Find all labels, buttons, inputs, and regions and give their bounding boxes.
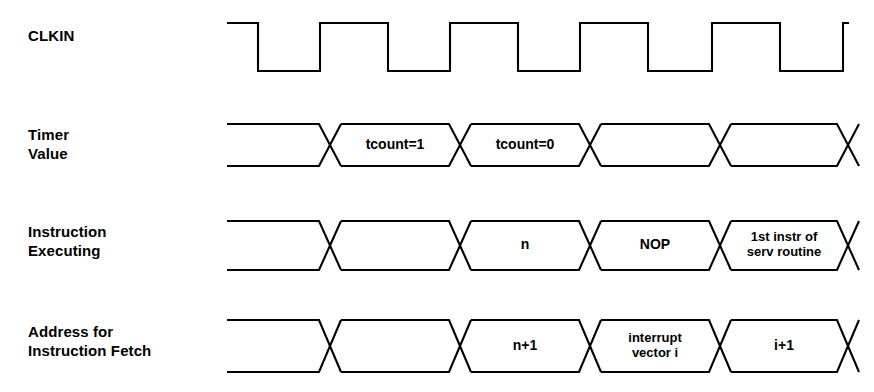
signal-label-clkin: CLKIN (28, 26, 74, 45)
signal-label-address-for-instruction-fetch: Address for Instruction Fetch (28, 322, 151, 360)
bus-value-line: 1st instr of (751, 229, 818, 244)
bus-value: NOP (640, 236, 670, 252)
bus-value: interruptvector i (628, 330, 682, 360)
signal-row-address-for-instruction-fetch: n+1interruptvector ii+1 (227, 320, 859, 372)
bus-value: tcount=1 (366, 136, 425, 152)
bus-value: 1st instr ofserv routine (747, 229, 821, 259)
bus-value: n+1 (513, 337, 538, 353)
clock-waveform (227, 23, 849, 71)
timing-diagram: tcount=1tcount=0nNOP1st instr ofserv rou… (0, 0, 874, 392)
bus-value-line: vector i (632, 345, 678, 360)
bus-value-line: interrupt (628, 330, 682, 345)
bus-value: tcount=0 (496, 136, 555, 152)
signal-label-timer-value: Timer Value (28, 125, 69, 163)
signal-label-instruction-executing: Instruction Executing (28, 222, 107, 260)
bus-value: n (521, 236, 530, 252)
signal-row-clkin (227, 23, 849, 71)
signal-row-instruction-executing: nNOP1st instr ofserv routine (227, 221, 859, 270)
bus-value-line: serv routine (747, 244, 821, 259)
signal-row-timer-value: tcount=1tcount=0 (227, 124, 859, 166)
bus-value: i+1 (774, 337, 794, 353)
